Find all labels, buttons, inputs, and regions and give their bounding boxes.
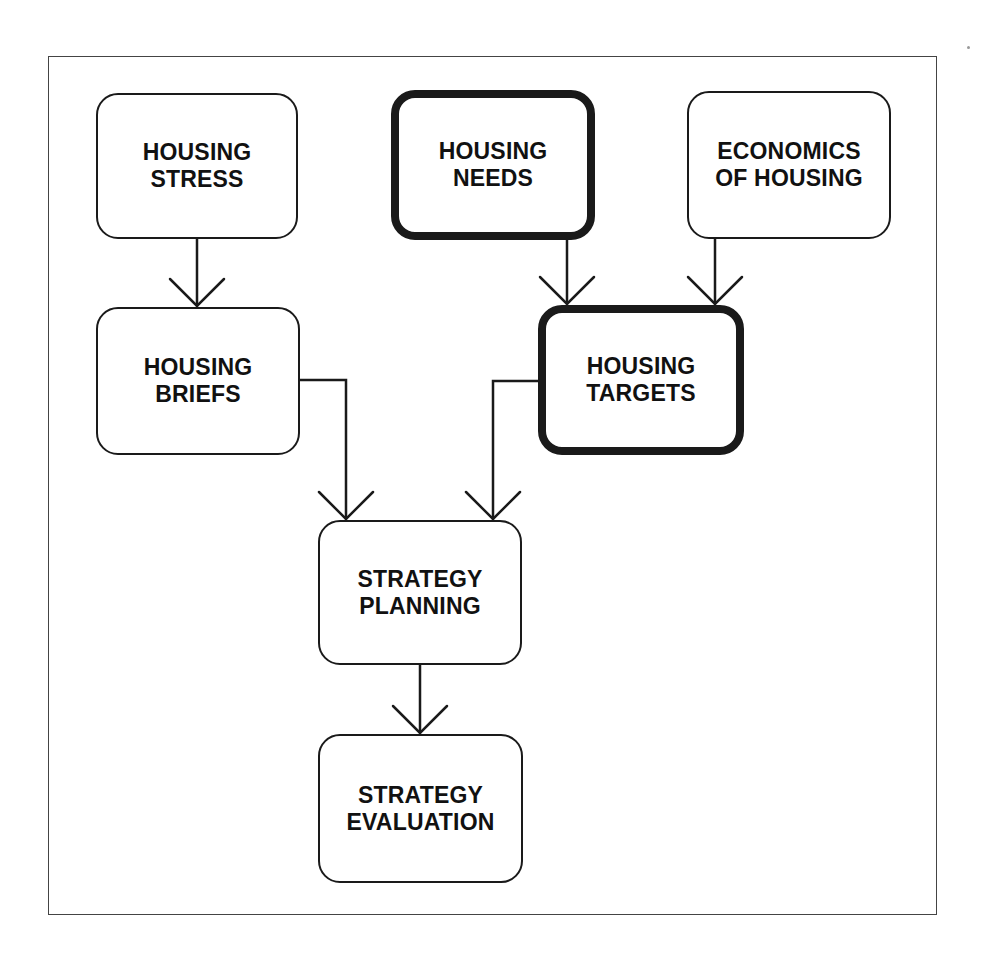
node-label: HOUSING BRIEFS (144, 354, 253, 408)
node-housing-targets: HOUSING TARGETS (538, 305, 744, 455)
node-label: HOUSING TARGETS (586, 353, 696, 407)
edge-needs-to-targets (540, 238, 594, 304)
node-housing-stress: HOUSING STRESS (96, 93, 298, 239)
edge-planning-to-evaluation (393, 664, 447, 733)
node-label: STRATEGY PLANNING (357, 566, 482, 620)
edge-targets-to-planning (466, 381, 538, 519)
node-strategy-planning: STRATEGY PLANNING (318, 520, 522, 665)
node-label: ECONOMICS OF HOUSING (715, 138, 863, 192)
node-label: HOUSING STRESS (143, 139, 252, 193)
edge-stress-to-briefs (170, 238, 224, 306)
node-housing-briefs: HOUSING BRIEFS (96, 307, 300, 455)
node-label: STRATEGY EVALUATION (346, 782, 494, 836)
node-strategy-evaluation: STRATEGY EVALUATION (318, 734, 523, 883)
edge-economics-to-targets (688, 238, 742, 304)
node-label: HOUSING NEEDS (439, 138, 548, 192)
edge-briefs-to-planning (299, 380, 373, 519)
node-economics-of-housing: ECONOMICS OF HOUSING (687, 91, 891, 239)
node-housing-needs: HOUSING NEEDS (391, 90, 595, 240)
speck-mark (967, 46, 970, 49)
